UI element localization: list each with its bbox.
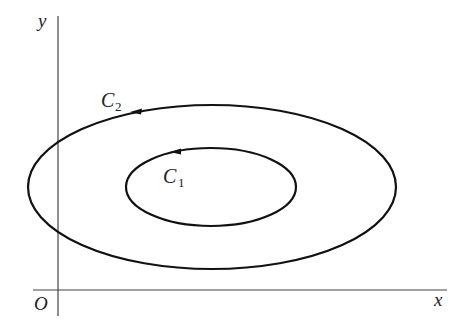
origin-label: O [34, 293, 48, 314]
y-axis-label: y [36, 10, 47, 31]
c2-label-subscript: 2 [115, 99, 122, 114]
c1-label-name: C [163, 165, 177, 187]
c1-label: C 1 [163, 165, 185, 190]
c2-label: C 2 [101, 89, 122, 114]
c1-direction-arrow-icon [170, 149, 181, 155]
curve-c1 [126, 148, 296, 226]
c2-label-name: C [101, 89, 115, 111]
c1-label-subscript: 1 [178, 175, 185, 190]
curve-c2 [28, 105, 396, 269]
diagram-canvas: y x O C 2 C 1 [0, 0, 456, 332]
x-axis-label: x [433, 289, 443, 310]
